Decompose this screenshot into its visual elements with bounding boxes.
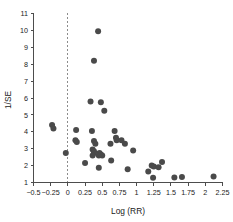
y-axis-tick-label: 10 — [20, 26, 28, 35]
x-axis-tick-label: 1.25 — [147, 188, 161, 197]
y-axis-tick-label: 9 — [24, 43, 28, 52]
scatter-point — [88, 98, 94, 104]
y-axis-tick-label: 5 — [24, 111, 28, 120]
scatter-point — [98, 99, 104, 105]
scatter-point — [156, 164, 162, 170]
scatter-point — [90, 152, 96, 158]
scatter-point — [112, 128, 118, 134]
funnel-plot-figure: 1234567891011−0.5−0.2500.250.50.7511.251… — [0, 0, 233, 222]
scatter-point — [108, 158, 114, 164]
x-axis-tick-label: 0.5 — [97, 188, 107, 197]
scatter-point — [91, 58, 97, 64]
scatter-plot-canvas: 1234567891011−0.5−0.2500.250.50.7511.251… — [0, 0, 233, 222]
x-axis-tick-label: 2.25 — [216, 188, 230, 197]
x-axis-tick-label: −0.5 — [26, 188, 40, 197]
x-axis-tick-label: 1 — [135, 188, 139, 197]
scatter-point — [50, 125, 56, 131]
y-axis-tick-label: 8 — [24, 60, 28, 69]
scatter-point — [107, 141, 113, 147]
x-axis-title: Log (RR) — [111, 206, 145, 216]
scatter-point — [82, 160, 88, 166]
scatter-point — [74, 139, 80, 145]
x-axis-tick-label: 1.5 — [166, 188, 176, 197]
x-axis-tick-label: 1.75 — [181, 188, 195, 197]
scatter-point — [145, 169, 151, 175]
scatter-point — [92, 141, 98, 147]
y-axis-tick-label: 11 — [21, 9, 28, 18]
scatter-point — [171, 174, 177, 180]
x-axis-tick-label: 0 — [66, 188, 70, 197]
y-axis-tick-label: 2 — [24, 161, 28, 170]
x-axis-tick-label: 0.75 — [112, 188, 126, 197]
scatter-point — [130, 147, 136, 153]
scatter-point — [179, 174, 185, 180]
scatter-point — [211, 174, 217, 180]
y-axis-tick-label: 3 — [24, 144, 28, 153]
scatter-point — [122, 141, 128, 147]
scatter-point — [73, 127, 79, 133]
x-axis-tick-label: 0.25 — [78, 188, 92, 197]
scatter-point — [96, 165, 102, 171]
scatter-point — [89, 128, 95, 134]
scatter-point — [125, 166, 131, 172]
y-axis-tick-label: 7 — [24, 77, 28, 86]
x-axis-tick-label: −0.25 — [42, 188, 60, 197]
scatter-point — [101, 108, 107, 114]
y-axis-tick-label: 6 — [24, 94, 28, 103]
scatter-point — [150, 175, 156, 181]
y-axis-tick-label: 4 — [24, 127, 28, 136]
y-axis-tick-label: 1 — [24, 178, 28, 187]
y-axis-title: 1/SE — [3, 91, 13, 110]
scatter-point — [159, 159, 165, 165]
scatter-point — [95, 28, 101, 34]
x-axis-tick-label: 2 — [203, 188, 207, 197]
scatter-point — [99, 152, 105, 158]
scatter-point — [63, 150, 69, 156]
